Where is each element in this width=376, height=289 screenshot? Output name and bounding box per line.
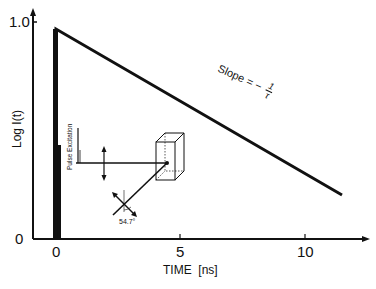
- y-tick-0: 0: [15, 230, 23, 247]
- x-tick-0: 0: [52, 243, 60, 260]
- angle-label: 54.7°: [119, 218, 135, 225]
- y-tick-1.0: 1.0: [9, 13, 30, 30]
- decay-curve: [56, 29, 342, 239]
- inset-diagram: [76, 128, 184, 217]
- x-axis-label: TIME [ns]: [163, 263, 218, 277]
- x-tick-5: 5: [176, 243, 184, 260]
- cuvette-icon: [156, 133, 184, 180]
- pulse-excitation-label: Pulse Excitation: [66, 124, 73, 170]
- y-axis-label: Log I(t): [10, 104, 24, 154]
- x-tick-10: 10: [297, 243, 314, 260]
- emission-beam: [113, 163, 167, 215]
- y-axis: [30, 8, 37, 239]
- x-axis: [33, 234, 370, 242]
